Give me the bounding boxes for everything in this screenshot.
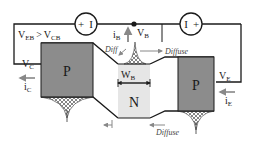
ic-label: iC [24, 81, 32, 94]
ve-label: VE [219, 70, 231, 83]
voltage-source-right: I + [180, 13, 202, 35]
diffuse-top-label: Diffuse [164, 47, 189, 56]
ib-label: iB [113, 29, 121, 42]
ie-label: iE [225, 95, 232, 108]
vc-label: VC [22, 58, 34, 71]
diff-label: Diff [104, 45, 119, 54]
small-diffusion-arrow [104, 120, 112, 128]
diff-arrow [119, 49, 126, 55]
collector-region-label: P [63, 64, 71, 79]
vb-label: VB [137, 27, 149, 40]
voltage-source-left: + I [75, 13, 97, 35]
source-left-plus: + [78, 18, 84, 30]
base-contact-funnel [124, 42, 146, 64]
diffuse-bottom-label: Diffuse [155, 128, 180, 137]
veb-gt-vcb-label: VEB>VCB [18, 29, 61, 42]
source-right-minus: I [184, 18, 188, 30]
emitter-region-label: P [192, 78, 200, 93]
pnp-transistor-diagram: + I I + P N P WB VEB>VCB VC iC [0, 0, 254, 146]
base-node [131, 21, 136, 26]
base-region-label: N [129, 95, 139, 110]
source-left-minus: I [89, 18, 93, 30]
source-right-plus: + [193, 18, 199, 30]
